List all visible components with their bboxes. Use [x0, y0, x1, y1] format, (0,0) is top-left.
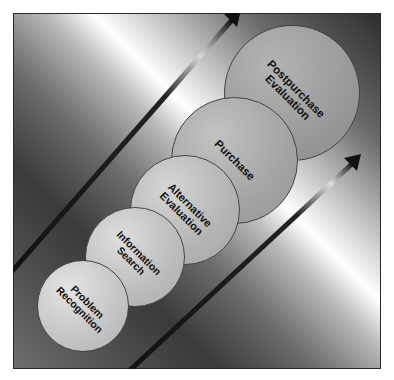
- stage-label: Problem Recognition: [54, 277, 112, 335]
- stage-problem-recognition: Problem Recognition: [37, 260, 129, 352]
